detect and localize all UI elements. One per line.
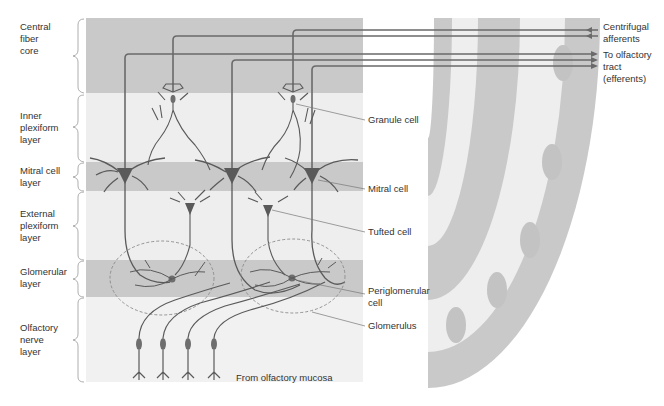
label-centrifugal-afferents: Centrifugal afferents <box>603 21 649 45</box>
label-tufted-cell: Tufted cell <box>368 226 411 238</box>
layer-label-inner-plexiform: Inner plexiform layer <box>20 110 59 146</box>
olfactory-bulb-diagram <box>0 0 664 406</box>
label-from-olfactory-mucosa: From olfactory mucosa <box>236 372 333 384</box>
label-glomerulus: Glomerulus <box>368 320 417 332</box>
label-periglomerular-cell: Periglomerular cell <box>368 285 430 309</box>
layer-label-glomerular: Glomerular layer <box>20 266 67 290</box>
label-mitral-cell: Mitral cell <box>368 183 408 195</box>
layer-bands <box>86 18 363 382</box>
layer-label-mitral-cell: Mitral cell layer <box>20 165 60 189</box>
layer-label-external-plexiform: External plexiform layer <box>20 208 59 244</box>
label-to-olfactory-tract: To olfactory tract (efferents) <box>603 49 652 85</box>
layer-label-olfactory-nerve: Olfactory nerve layer <box>20 322 58 358</box>
layer-braces <box>73 19 84 382</box>
label-granule-cell: Granule cell <box>368 114 419 126</box>
layer-label-central-fiber-core: Central fiber core <box>20 21 51 57</box>
